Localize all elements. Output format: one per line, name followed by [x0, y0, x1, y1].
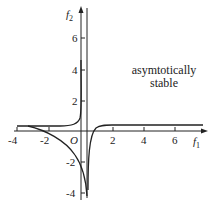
origin-label: O	[70, 134, 78, 146]
annotation-line-1: asymtotically	[132, 63, 197, 77]
y-axis-arrow-icon	[79, 6, 84, 13]
x-tick-label: 4	[141, 134, 147, 146]
y-tick-label: 6	[72, 32, 78, 44]
x-tick-label: -2	[40, 134, 49, 146]
x-axis-label: f1	[193, 135, 200, 150]
y-tick-label: 4	[72, 64, 78, 76]
annotation-line-2: stable	[150, 76, 178, 90]
phase-diagram: -4 -2 2 4 6 6 4 2 -2 -4 O f2 f1 asymtoti…	[0, 0, 213, 210]
x-tick-label: -4	[8, 134, 18, 146]
y-axis-label: f2	[66, 8, 73, 23]
y-tick-label: -4	[66, 187, 76, 199]
y-tick-label: 2	[72, 95, 78, 107]
x-axis-arrow-icon	[201, 129, 208, 134]
x-tick-label: 2	[110, 134, 116, 146]
y-tick-label: -2	[66, 156, 75, 168]
x-tick-label: 6	[172, 134, 178, 146]
curve-lower-left	[28, 126, 87, 196]
